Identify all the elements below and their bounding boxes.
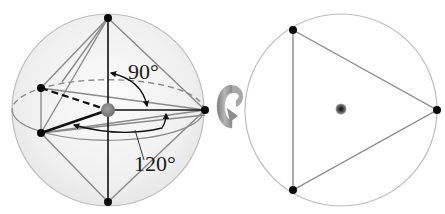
ligand-atom-top	[104, 14, 112, 22]
ligand-atom-right	[433, 106, 441, 114]
ligand-atom-bottom	[104, 198, 112, 206]
angle-label-90: 90°	[128, 59, 159, 84]
ligand-atom-front-left	[37, 129, 45, 137]
right-top-view	[245, 14, 441, 206]
figure-canvas: 90° 120°	[0, 0, 445, 214]
left-bipyramid-view: 90° 120°	[12, 14, 209, 206]
ligand-atom-back-left	[37, 84, 45, 92]
ligand-atom-top-left	[289, 26, 297, 34]
ligand-atom-bottom-left	[289, 186, 297, 194]
ligand-atom-right	[201, 106, 209, 114]
central-atom-top-view	[336, 104, 347, 115]
central-atom	[101, 103, 115, 117]
angle-label-120: 120°	[134, 151, 176, 176]
rotate-icon	[217, 85, 243, 128]
